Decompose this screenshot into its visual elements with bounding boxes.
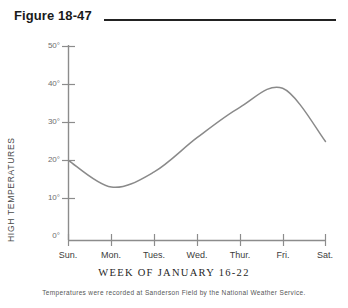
figure-container: Figure 18-47 (0, 0, 348, 308)
x-tick-label-tues: Tues. (131, 250, 177, 260)
figure-caption: Temperatures were recorded at Sanderson … (0, 289, 348, 296)
y-tick-label-10: 10° (34, 193, 60, 202)
chart-plot-area: 50° 40° 30° 20° 10° 0° Sun. Mon. Tues. W… (0, 0, 348, 308)
x-tick-label-sat: Sat. (302, 250, 348, 260)
y-tick-label-0: 0° (34, 231, 60, 240)
x-tick-label-thur: Thur. (217, 250, 263, 260)
x-tick-label-mon: Mon. (88, 250, 134, 260)
y-tick-label-30: 30° (34, 117, 60, 126)
x-tick-label-fri: Fri. (260, 250, 306, 260)
x-tick-label-wed: Wed. (174, 250, 220, 260)
y-axis-title-text: HIGH TEMPERATURES (6, 92, 16, 242)
y-tick-label-50: 50° (34, 41, 60, 50)
temperature-curve (69, 87, 326, 187)
y-tick-label-40: 40° (34, 79, 60, 88)
y-tick-label-20: 20° (34, 155, 60, 164)
x-axis-title: WEEK OF JANUARY 16-22 (0, 267, 348, 278)
x-tick-label-sun: Sun. (45, 250, 91, 260)
y-axis-title: HIGH TEMPERATURES (6, 0, 16, 92)
